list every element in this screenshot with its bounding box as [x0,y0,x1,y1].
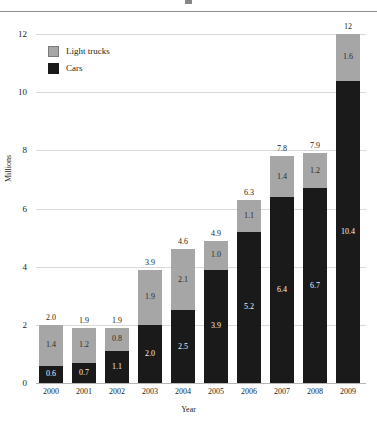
bar-segment-light-trucks[interactable]: 1.4 [39,325,63,366]
bar-value-label-cars: 2.0 [138,350,162,358]
bar-group[interactable]: 6.71.27.9 [303,153,327,383]
bar-value-label-cars: 5.2 [237,303,261,311]
cropped-title-glyph [185,0,192,4]
x-tick-label: 2008 [300,388,330,396]
bar-total-label: 7.8 [270,145,294,153]
gridline-10 [36,92,366,93]
bar-segment-light-trucks[interactable]: 1.1 [237,200,261,232]
bar-segment-light-trucks[interactable]: 1.2 [303,153,327,188]
bar-segment-cars[interactable]: 1.1 [105,351,129,383]
bar-value-label-cars: 3.9 [204,322,228,330]
bar-segment-light-trucks[interactable]: 1.0 [204,241,228,270]
bar-segment-cars[interactable]: 5.2 [237,232,261,383]
header-divider [0,11,377,12]
bar-segment-light-trucks[interactable]: 1.2 [72,328,96,363]
bar-total-label: 7.9 [303,142,327,150]
y-axis-ticks: 024681012 [0,34,36,383]
y-tick-label: 10 [0,88,27,97]
x-axis-line [36,383,366,384]
bar-value-label-light-trucks: 1.4 [270,173,294,181]
bar-total-label: 3.9 [138,259,162,267]
bar-segment-cars[interactable]: 3.9 [204,270,228,383]
bar-segment-cars[interactable]: 0.7 [72,363,96,383]
bar-total-label: 12 [336,23,360,31]
bar-group[interactable]: 0.71.21.9 [72,328,96,383]
bar-value-label-cars: 6.4 [270,286,294,294]
bar-segment-cars[interactable]: 2.5 [171,310,195,383]
legend-item[interactable]: Cars [48,61,110,76]
bar-group[interactable]: 2.52.14.6 [171,249,195,383]
gridline-12 [36,34,366,35]
bar-segment-light-trucks[interactable]: 1.9 [138,270,162,325]
bar-segment-cars[interactable]: 6.7 [303,188,327,383]
gridline-8 [36,150,366,151]
bar-total-label: 2.0 [39,314,63,322]
bar-group[interactable]: 1.10.81.9 [105,328,129,383]
bar-value-label-cars: 1.1 [105,363,129,371]
bar-value-label-cars: 2.5 [171,343,195,351]
bar-value-label-cars: 0.6 [39,370,63,378]
y-tick-label: 0 [0,379,27,388]
y-tick-label: 12 [0,30,27,39]
bar-value-label-light-trucks: 1.0 [204,251,228,259]
bar-value-label-light-trucks: 2.1 [171,276,195,284]
x-tick-label: 2002 [102,388,132,396]
bar-group[interactable]: 3.91.04.9 [204,241,228,384]
bar-value-label-light-trucks: 0.8 [105,335,129,343]
legend-swatch-truck-icon [48,46,59,57]
bar-value-label-light-trucks: 1.9 [138,293,162,301]
bar-total-label: 4.9 [204,230,228,238]
bar-segment-light-trucks[interactable]: 0.8 [105,328,129,351]
bar-group[interactable]: 0.61.42.0 [39,325,63,383]
x-tick-label: 2003 [135,388,165,396]
x-tick-label: 2009 [333,388,363,396]
bar-value-label-light-trucks: 1.2 [72,341,96,349]
chart-legend: Light trucksCars [48,44,110,78]
bar-segment-cars[interactable]: 0.6 [39,366,63,383]
bar-value-label-light-trucks: 1.2 [303,167,327,175]
bar-segment-cars[interactable]: 6.4 [270,197,294,383]
bar-total-label: 1.9 [105,317,129,325]
bar-total-label: 6.3 [237,189,261,197]
x-tick-label: 2004 [168,388,198,396]
legend-label: Cars [66,64,83,73]
plot-area: 0.61.42.00.71.21.91.10.81.92.01.93.92.52… [36,34,366,383]
legend-swatch-car-icon [48,63,59,74]
y-tick-label: 4 [0,263,27,272]
bar-group[interactable]: 6.41.47.8 [270,156,294,383]
bar-total-label: 4.6 [171,238,195,246]
legend-label: Light trucks [66,47,110,56]
bar-value-label-light-trucks: 1.4 [39,341,63,349]
bar-value-label-light-trucks: 1.1 [237,212,261,220]
bar-segment-light-trucks[interactable]: 1.4 [270,156,294,197]
chart-container: 024681012 Millions 0.61.42.00.71.21.91.1… [0,0,377,423]
bar-group[interactable]: 2.01.93.9 [138,270,162,383]
bar-group[interactable]: 10.41.612 [336,34,360,383]
bar-value-label-cars: 6.7 [303,282,327,290]
legend-item[interactable]: Light trucks [48,44,110,59]
bar-segment-light-trucks[interactable]: 2.1 [171,249,195,310]
x-axis-label: Year [0,405,377,414]
x-tick-label: 2007 [267,388,297,396]
bar-total-label: 1.9 [72,317,96,325]
bar-group[interactable]: 5.21.16.3 [237,200,261,383]
x-tick-label: 2000 [36,388,66,396]
bar-value-label-light-trucks: 1.6 [336,53,360,61]
bar-value-label-cars: 10.4 [336,228,360,236]
bar-segment-cars[interactable]: 10.4 [336,81,360,383]
x-tick-label: 2005 [201,388,231,396]
bar-segment-light-trucks[interactable]: 1.6 [336,34,360,81]
bar-segment-cars[interactable]: 2.0 [138,325,162,383]
y-tick-label: 2 [0,321,27,330]
x-tick-label: 2001 [69,388,99,396]
bar-value-label-cars: 0.7 [72,369,96,377]
y-tick-label: 6 [0,205,27,214]
y-axis-label: Millions [4,155,13,182]
x-tick-label: 2006 [234,388,264,396]
